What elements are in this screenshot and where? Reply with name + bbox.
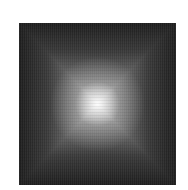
gradient-square-image [19, 23, 176, 185]
texture-noise [19, 23, 176, 185]
